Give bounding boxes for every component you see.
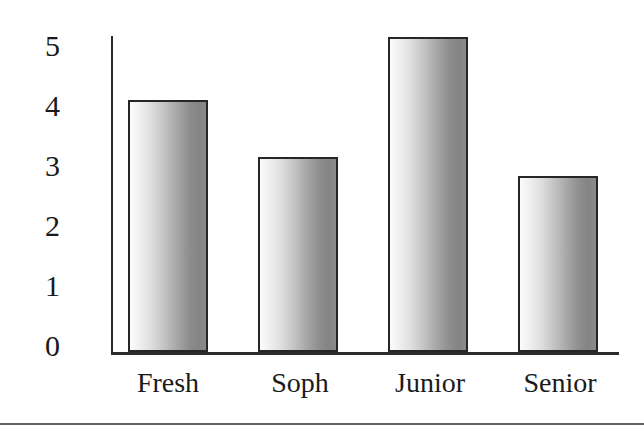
y-tick-label-4: 4 <box>20 91 60 121</box>
y-axis-line <box>111 36 113 354</box>
bar-soph <box>258 157 338 352</box>
chart-screenshot: 5 4 3 2 1 0 Fresh Soph Junior Senior <box>0 0 644 434</box>
x-tick-label-fresh: Fresh <box>108 366 228 400</box>
x-axis-line <box>111 352 619 355</box>
y-tick-label-2: 2 <box>20 211 60 241</box>
y-tick-label-0: 0 <box>20 331 60 361</box>
bar-fresh <box>128 100 208 352</box>
x-tick-label-soph: Soph <box>240 366 360 400</box>
x-tick-label-junior: Junior <box>370 366 490 400</box>
y-tick-label-1: 1 <box>20 271 60 301</box>
bar-chart: 5 4 3 2 1 0 Fresh Soph Junior Senior <box>0 0 644 434</box>
x-tick-label-senior: Senior <box>500 366 620 400</box>
bar-junior <box>388 37 468 352</box>
page-divider-rule <box>0 423 644 425</box>
bar-senior <box>518 176 598 352</box>
y-tick-label-5: 5 <box>20 31 60 61</box>
y-tick-label-3: 3 <box>20 151 60 181</box>
